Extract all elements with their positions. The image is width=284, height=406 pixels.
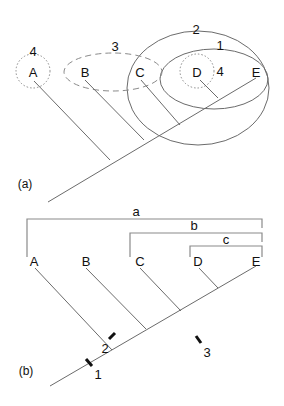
- branch-a-A: [34, 81, 110, 160]
- taxon-label: C: [135, 65, 144, 80]
- grouping-label: 4: [216, 64, 223, 79]
- panel-caption: (a): [18, 177, 33, 191]
- grouping-3-ellipse: [64, 53, 162, 91]
- grouping-label: 2: [192, 22, 199, 37]
- taxon-label: D: [193, 254, 202, 269]
- taxon-label: B: [82, 254, 91, 269]
- cladogram-figure: A B C D E 1 2 3 4 4 (a) a b c A B C D E: [0, 0, 284, 406]
- grouping-label: 4: [29, 44, 36, 59]
- grouping-label: 1: [216, 38, 223, 53]
- branch-b-C: [140, 268, 181, 311]
- taxon-label: A: [30, 254, 39, 269]
- branch-a-D: [200, 80, 218, 98]
- character-label: 3: [203, 345, 210, 360]
- branch-b-A: [35, 268, 112, 350]
- taxon-label: E: [252, 65, 261, 80]
- grouping-label: 3: [111, 39, 118, 54]
- character-tick-2: [109, 333, 115, 339]
- main-stem-a: [48, 78, 256, 202]
- clade-label: a: [132, 204, 140, 219]
- character-label: 1: [94, 367, 101, 382]
- panel-b: a b c A B C D E 1 2 3 (b): [19, 204, 262, 386]
- character-label: 2: [101, 341, 108, 356]
- taxon-label: D: [192, 65, 201, 80]
- clade-label: b: [190, 218, 197, 233]
- clade-label: c: [223, 232, 230, 247]
- character-tick-3: [196, 336, 201, 343]
- branch-b-D: [199, 268, 218, 288]
- branch-a-C: [141, 80, 180, 125]
- branch-b-B: [86, 268, 146, 329]
- taxon-label: C: [135, 254, 144, 269]
- taxon-label: E: [252, 254, 261, 269]
- panel-a: A B C D E 1 2 3 4 4 (a): [16, 22, 269, 202]
- main-stem-b: [50, 266, 256, 386]
- taxon-label: B: [81, 65, 90, 80]
- taxon-label: A: [29, 65, 38, 80]
- panel-caption: (b): [19, 364, 34, 378]
